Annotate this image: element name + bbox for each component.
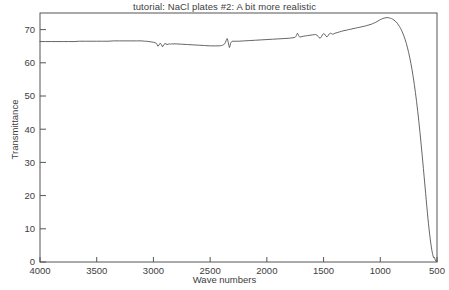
y-tick-label: 60	[24, 57, 35, 68]
data-series-group	[40, 18, 437, 262]
y-axis-ticks: 010203040506070	[24, 24, 46, 267]
plot-area: 4000350030002500200015001000500 01020304…	[0, 0, 449, 290]
y-axis-label: Transmittance	[9, 70, 20, 190]
spectrum-line	[40, 18, 437, 262]
y-tick-label: 40	[24, 124, 35, 135]
y-tick-label: 20	[24, 190, 35, 201]
x-axis-label: Wave numbers	[0, 274, 449, 285]
y-tick-label: 30	[24, 157, 35, 168]
plot-frame	[40, 13, 437, 262]
y-tick-label: 0	[30, 256, 35, 267]
plot-border	[40, 13, 437, 262]
y-tick-label: 10	[24, 223, 35, 234]
y-tick-label: 70	[24, 24, 35, 35]
spectrum-chart: tutorial: NaCl plates #2: A bit more rea…	[0, 0, 449, 290]
y-tick-label: 50	[24, 90, 35, 101]
